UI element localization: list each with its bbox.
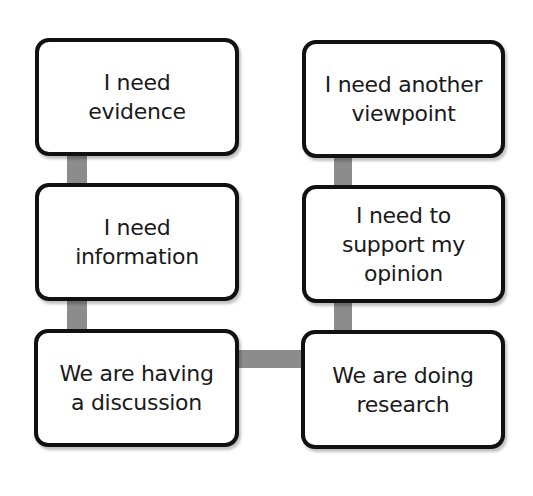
connector-viewpoint-support	[334, 154, 352, 188]
box-text-line: evidence	[88, 97, 185, 126]
box-we-are-having-a-discussion: We are having a discussion	[34, 329, 239, 447]
connector-evidence-information	[67, 152, 87, 186]
box-text-line: opinion	[342, 259, 465, 288]
box-text-line: I need	[88, 68, 185, 97]
box-text-line: support my	[342, 230, 465, 259]
box-i-need-information: I need information	[35, 183, 239, 301]
box-text-line: research	[332, 390, 473, 419]
connector-information-discussion	[67, 297, 87, 332]
box-text-line: information	[75, 242, 199, 271]
box-text-line: I need another	[325, 70, 482, 99]
box-text-line: a discussion	[59, 388, 213, 417]
box-i-need-another-viewpoint: I need another viewpoint	[302, 40, 505, 158]
box-i-need-evidence: I need evidence	[35, 38, 239, 156]
connector-support-research	[334, 299, 352, 333]
box-i-need-to-support-my-opinion: I need to support my opinion	[302, 185, 505, 303]
box-text-line: We are having	[59, 359, 213, 388]
connector-discussion-research	[234, 350, 304, 368]
box-text-line: viewpoint	[325, 99, 482, 128]
box-text-line: I need	[75, 213, 199, 242]
box-we-are-doing-research: We are doing research	[301, 330, 505, 449]
box-text-line: I need to	[342, 201, 465, 230]
box-text-line: We are doing	[332, 361, 473, 390]
